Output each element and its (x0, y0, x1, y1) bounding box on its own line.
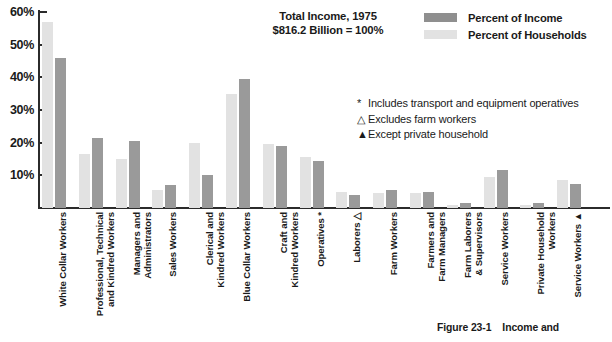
bar-percent-of-income (570, 184, 581, 209)
bar-group (336, 10, 373, 208)
bar-percent-of-income (533, 203, 544, 208)
bar-group (226, 10, 263, 208)
category-label: Farmers and Farm Managers (426, 212, 447, 330)
bar-percent-of-income (165, 185, 176, 208)
y-axis-tick-label: 40% (0, 71, 34, 83)
bar-percent-of-households (410, 193, 421, 208)
bar-percent-of-households (116, 159, 127, 208)
bar-group (263, 10, 300, 208)
bar-group (410, 10, 447, 208)
figure-number: Figure 23-1 (437, 322, 491, 333)
bar-group (557, 10, 594, 208)
bar-percent-of-households (189, 143, 200, 208)
category-label: Private Household Workers (536, 212, 557, 330)
figure-caption-text: Income and (502, 322, 559, 333)
y-axis-tick-label: 10% (0, 169, 34, 181)
bar-group (189, 10, 226, 208)
bar-percent-of-households (447, 205, 458, 208)
y-axis-tick-label: 60% (0, 6, 34, 18)
bar-percent-of-households (557, 180, 568, 208)
category-label: Farm Laborers & Supervisors (463, 212, 484, 330)
category-label: Sales Workers (168, 212, 179, 330)
bar-percent-of-income (129, 141, 140, 208)
bar-percent-of-households (79, 154, 90, 208)
y-axis-tick-label: 20% (0, 137, 34, 149)
y-axis-tick-label: 50% (0, 39, 34, 51)
bar-percent-of-households (373, 193, 384, 208)
bar-percent-of-households (152, 190, 163, 208)
bar-group (520, 10, 557, 208)
bar-group (79, 10, 116, 208)
bar-percent-of-income (423, 192, 434, 208)
bar-percent-of-income (92, 138, 103, 208)
bar-percent-of-income (386, 190, 397, 208)
plot-area (40, 10, 610, 208)
category-label: Service Workers (500, 212, 511, 330)
income-occupation-bar-chart: Total Income, 1975 $816.2 Billion = 100%… (0, 0, 612, 342)
category-label: Clerical and Kindred Workers (205, 212, 226, 330)
bar-percent-of-households (263, 144, 274, 208)
category-label: Blue Collar Workers (242, 212, 253, 330)
bar-group (42, 10, 79, 208)
category-label: Farm Workers (389, 212, 400, 330)
bar-group (116, 10, 153, 208)
y-axis-tick-label: 30% (0, 104, 34, 116)
bar-percent-of-income (349, 195, 360, 208)
bar-percent-of-households (300, 157, 311, 208)
bar-percent-of-households (520, 205, 531, 208)
bar-percent-of-income (276, 146, 287, 208)
bar-group (447, 10, 484, 208)
category-label: Operatives * (316, 212, 327, 330)
figure-caption: Figure 23-1Income and (437, 322, 559, 333)
bar-percent-of-households (42, 22, 53, 208)
bar-group (152, 10, 189, 208)
bar-percent-of-households (226, 94, 237, 208)
bar-percent-of-income (55, 58, 66, 208)
category-label: Managers and Administrators (132, 212, 153, 330)
category-label: Professional, Technical and Kindred Work… (95, 212, 116, 330)
bar-group (484, 10, 521, 208)
bar-percent-of-income (497, 170, 508, 208)
bar-percent-of-households (484, 177, 495, 208)
bar-percent-of-income (202, 175, 213, 208)
bar-group (300, 10, 337, 208)
bar-percent-of-households (336, 192, 347, 208)
bar-group (373, 10, 410, 208)
category-label: White Collar Workers (58, 212, 69, 330)
category-label: Craft and Kindred Workers (279, 212, 300, 330)
bar-percent-of-income (460, 203, 471, 208)
category-label: Laborers △ (352, 212, 363, 330)
category-label: Service Workers ▲ (573, 212, 584, 330)
bar-percent-of-income (239, 79, 250, 208)
bar-percent-of-income (313, 161, 324, 208)
